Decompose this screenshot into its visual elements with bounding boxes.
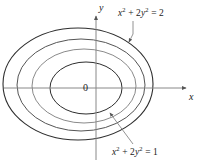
equation-inner-equals: = (143, 147, 153, 157)
leader-line-bottom (110, 113, 133, 144)
leader-line-top (129, 21, 133, 42)
level-curves-group (3, 28, 153, 140)
level-curve-3 (17, 39, 145, 131)
contour-plot-figure: x2 + 2y2 = 2 x2 + 2y2 = 1 y x 0 (0, 0, 200, 166)
equation-inner-value: 1 (153, 147, 158, 157)
equation-inner-plus: + (120, 147, 130, 157)
x-axis-label: x (189, 92, 193, 102)
equation-outer-plus: + (126, 8, 136, 18)
equation-label-inner: x2 + 2y2 = 1 (112, 148, 158, 158)
y-axis-label: y (99, 3, 103, 13)
equation-outer-equals: = (149, 8, 159, 18)
equation-label-outer: x2 + 2y2 = 2 (118, 9, 164, 19)
equation-outer-value: 2 (159, 8, 164, 18)
origin-label: 0 (83, 83, 88, 93)
plot-canvas (0, 0, 200, 166)
